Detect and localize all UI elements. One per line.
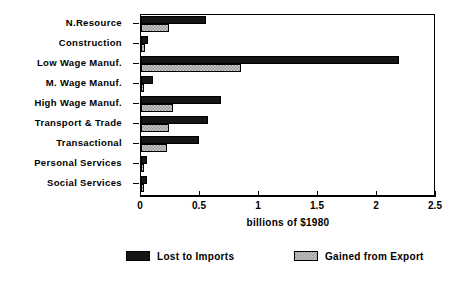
bar-chart: N.ResourceConstructionLow Wage Manuf.M. … [0,0,467,283]
x-tick [317,191,318,196]
category-label: Transactional [0,138,122,148]
bar-gained-from-export [141,124,169,132]
x-axis-line [140,196,436,197]
legend-entry: Lost to Imports [126,249,234,263]
chart-legend: Lost to ImportsGained from Export [126,249,426,265]
x-tick [258,191,259,196]
bar-gained-from-export [141,144,167,152]
category-tick [133,43,139,44]
category-axis: N.ResourceConstructionLow Wage Manuf.M. … [0,14,132,196]
legend-label: Gained from Export [325,251,424,262]
x-tick [140,191,141,196]
bar-lost-to-imports [141,76,153,84]
x-tick [435,191,436,196]
x-tick-label: 2.5 [415,200,455,211]
x-tick [199,191,200,196]
bar-lost-to-imports [141,156,147,164]
legend-swatch-imports [126,251,150,261]
bar-lost-to-imports [141,116,208,124]
category-label: N.Resource [0,18,122,28]
category-tick [133,63,139,64]
bar-gained-from-export [141,104,173,112]
category-tick [133,23,139,24]
x-axis-title: billions of $1980 [140,217,436,228]
bar-lost-to-imports [141,56,399,64]
bar-lost-to-imports [141,136,199,144]
category-label: Personal Services [0,158,122,168]
legend-label: Lost to Imports [157,251,234,262]
bar-lost-to-imports [141,36,148,44]
category-label: Transport & Trade [0,118,122,128]
bar-lost-to-imports [141,176,147,184]
bar-gained-from-export [141,44,145,52]
plot-area [140,14,435,196]
bar-gained-from-export [141,24,169,32]
x-tick [376,191,377,196]
category-tick [133,103,139,104]
legend-entry: Gained from Export [294,249,424,263]
category-label: Construction [0,38,122,48]
x-tick-label: 0.5 [179,200,219,211]
category-tick [133,123,139,124]
bar-gained-from-export [141,84,144,92]
bar-gained-from-export [141,64,241,72]
legend-swatch-exports [294,251,318,261]
category-tick [133,83,139,84]
category-tick [133,143,139,144]
category-label: Social Services [0,178,122,188]
category-tick [133,183,139,184]
category-label: High Wage Manuf. [0,98,122,108]
bar-gained-from-export [141,164,144,172]
category-tick [133,163,139,164]
x-tick-label: 2 [356,200,396,211]
category-label: Low Wage Manuf. [0,58,122,68]
bar-gained-from-export [141,184,144,192]
x-tick-label: 0 [120,200,160,211]
category-label: M. Wage Manuf. [0,78,122,88]
bar-lost-to-imports [141,16,206,24]
x-tick-label: 1.5 [297,200,337,211]
bar-lost-to-imports [141,96,221,104]
x-tick-label: 1 [238,200,278,211]
